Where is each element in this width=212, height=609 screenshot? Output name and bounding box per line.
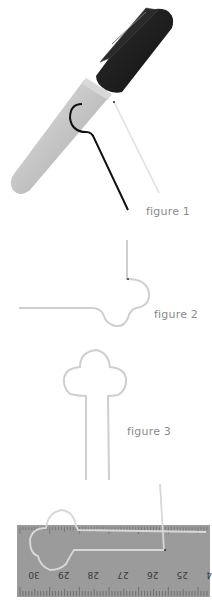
figure-1-wire-gray [114,102,159,193]
illustration-canvas: 30292827262524 [0,0,212,609]
ruler-label: 29 [58,570,70,580]
ruler-label: 27 [117,570,128,580]
ruler-label: 24 [206,570,212,580]
ruler-label: 26 [147,570,159,580]
figure-1-marker [11,8,173,194]
ruler: 30292827262524 [17,525,212,597]
ruler-label: 30 [28,570,40,580]
ruler-label: 25 [177,570,188,580]
figure-2-caption: figure 2 [154,308,198,321]
figure-2-wire [19,240,149,326]
figure-1-caption: figure 1 [146,205,190,218]
ruler-body [17,525,210,597]
figure-3-wire [64,350,126,480]
marker-body [11,80,110,194]
ruler-label: 28 [87,570,99,580]
figure-3-caption: figure 3 [127,425,171,438]
